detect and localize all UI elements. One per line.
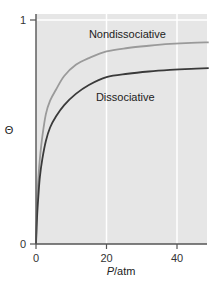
series-label-dissociative: Dissociative — [96, 91, 155, 103]
x-axis-title: P/atm — [107, 265, 136, 277]
x-tick-label: 20 — [100, 252, 112, 264]
y-tick-label: 0 — [20, 238, 26, 250]
x-axis-title-unit: /atm — [114, 265, 135, 277]
series-label-nondissociative: Nondissociative — [89, 28, 166, 40]
y-axis-title: Θ — [5, 124, 14, 136]
y-tick-label: 1 — [20, 14, 26, 26]
x-tick-label: 0 — [33, 252, 39, 264]
x-tick-label: 40 — [171, 252, 183, 264]
chart: 0204001 Θ P/atm NondissociativeDissociat… — [0, 0, 218, 291]
